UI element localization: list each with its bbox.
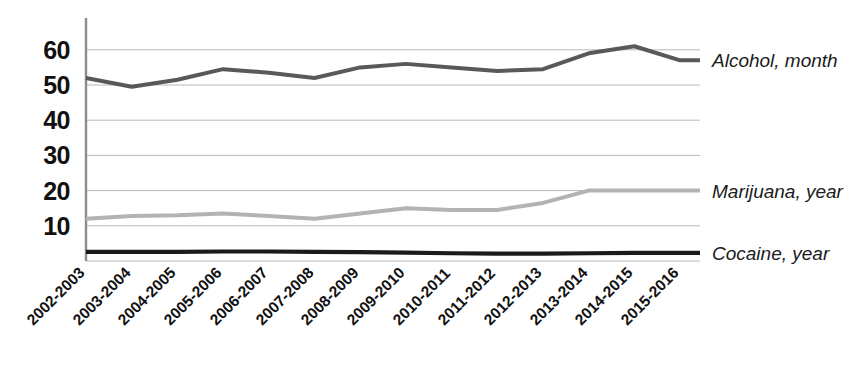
legend-label-0: Alcohol, month [712,51,838,70]
line-chart: 605040302010 2002-20032003-20042004-2005… [0,0,866,382]
chart-legend: Alcohol, monthMarijuana, yearCocaine, ye… [0,0,866,382]
legend-label-2: Cocaine, year [712,243,829,262]
legend-label-1: Marijuana, year [712,181,843,200]
